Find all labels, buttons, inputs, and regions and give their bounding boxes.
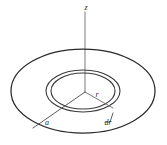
disc-with-annulus-diagram: z r a dr xyxy=(0,0,167,145)
radius-a-label: a xyxy=(45,118,49,127)
ring-width-dr-label: dr xyxy=(104,118,112,127)
figure-container: z r a dr xyxy=(0,0,167,145)
